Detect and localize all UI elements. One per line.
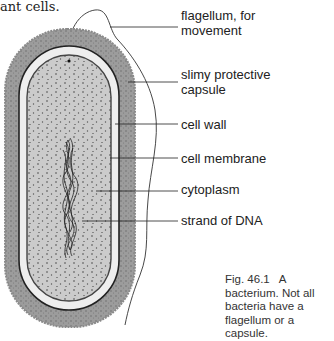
figure-number: Fig. 46.1 (225, 273, 270, 285)
label-cell-membrane: cell membrane (181, 151, 266, 166)
label-flagellum: flagellum, for movement (181, 8, 291, 38)
label-dna: strand of DNA (181, 213, 263, 228)
label-capsule: slimy protective capsule (181, 67, 296, 97)
label-cytoplasm: cytoplasm (181, 182, 240, 197)
label-cell-wall: cell wall (181, 117, 227, 132)
figure-caption: Fig. 46.1 A bacterium. Not all bacteria … (225, 273, 334, 341)
